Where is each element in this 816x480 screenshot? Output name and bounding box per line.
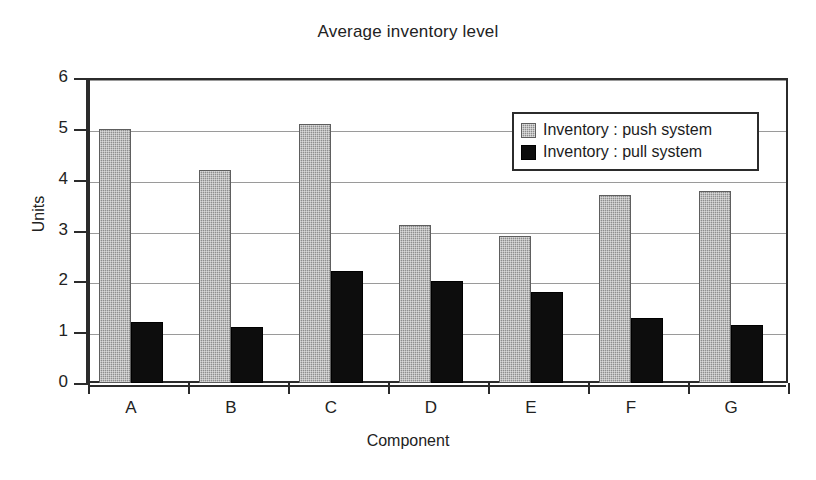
legend: Inventory : push system Inventory : pull… [512, 112, 759, 171]
bar-push-G [699, 191, 731, 383]
x-tick-C [288, 383, 290, 394]
legend-item-pull: Inventory : pull system [521, 141, 747, 163]
y-tick-4 [74, 180, 88, 182]
y-tick-label-5: 5 [40, 119, 68, 136]
y-tick-5 [74, 129, 88, 131]
y-tick-1 [74, 332, 88, 334]
legend-swatch-push-icon [521, 123, 536, 138]
bar-push-B [199, 170, 231, 384]
bar-pull-F [631, 318, 663, 383]
x-tick-D [388, 383, 390, 394]
x-tick-E [488, 383, 490, 394]
chart-title: Average inventory level [0, 22, 816, 42]
bar-pull-A [131, 322, 163, 383]
x-tick-label-A: A [101, 398, 161, 418]
bar-pull-C [331, 271, 363, 383]
legend-label-pull: Inventory : pull system [543, 144, 702, 160]
bar-pull-G [731, 325, 763, 383]
legend-swatch-pull-icon [521, 145, 536, 160]
bar-pull-E [531, 292, 563, 384]
gridline-0 [90, 385, 786, 387]
y-tick-label-3: 3 [40, 221, 68, 238]
bar-push-D [399, 225, 431, 383]
x-tick-A [88, 383, 90, 394]
x-tick-label-G: G [701, 398, 761, 418]
x-tick-end [788, 383, 790, 394]
bar-push-C [299, 124, 331, 383]
x-tick-label-D: D [401, 398, 461, 418]
y-tick-label-2: 2 [40, 271, 68, 288]
y-tick-6 [74, 78, 88, 80]
x-tick-label-E: E [501, 398, 561, 418]
y-tick-2 [74, 281, 88, 283]
x-tick-label-B: B [201, 398, 261, 418]
bar-pull-D [431, 281, 463, 383]
x-tick-G [688, 383, 690, 394]
x-tick-label-C: C [301, 398, 361, 418]
y-tick-label-1: 1 [40, 322, 68, 339]
bar-push-A [99, 129, 131, 383]
x-axis-title: Component [0, 432, 816, 450]
x-tick-B [188, 383, 190, 394]
legend-item-push: Inventory : push system [521, 119, 747, 141]
y-tick-0 [74, 383, 88, 385]
y-tick-3 [74, 231, 88, 233]
x-tick-F [588, 383, 590, 394]
x-tick-label-F: F [601, 398, 661, 418]
y-tick-label-4: 4 [40, 170, 68, 187]
bar-push-F [599, 195, 631, 383]
bar-push-E [499, 236, 531, 383]
y-tick-label-0: 0 [40, 373, 68, 390]
y-tick-label-6: 6 [40, 68, 68, 85]
legend-label-push: Inventory : push system [543, 122, 712, 138]
chart-figure: Average inventory level Units 0123456 AB… [0, 0, 816, 480]
bar-pull-B [231, 327, 263, 383]
